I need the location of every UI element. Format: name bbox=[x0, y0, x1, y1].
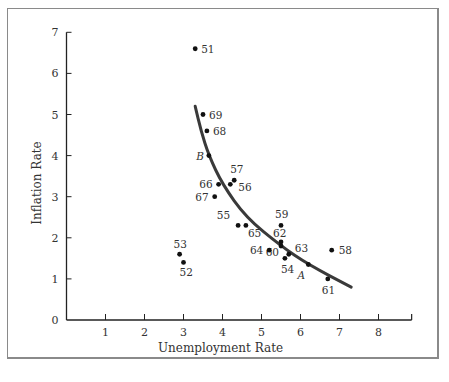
x-tick-label: 3 bbox=[180, 326, 187, 339]
point-label-55: 55 bbox=[217, 209, 230, 221]
point-label-62: 62 bbox=[273, 227, 286, 239]
point-label-61: 61 bbox=[322, 284, 335, 296]
point-label-59: 59 bbox=[275, 208, 288, 220]
y-tick-label: 1 bbox=[52, 273, 59, 286]
data-point bbox=[286, 252, 291, 257]
y-tick-label: 5 bbox=[52, 109, 59, 122]
data-point bbox=[193, 46, 198, 51]
y-tick-label: 3 bbox=[52, 191, 59, 204]
phillips-curve-chart: 0123456712345678515253545556575859606162… bbox=[0, 0, 449, 382]
data-point bbox=[329, 248, 334, 253]
y-tick-label: 0 bbox=[52, 314, 59, 327]
data-point bbox=[177, 252, 182, 257]
data-point bbox=[181, 260, 186, 265]
x-tick-label: 8 bbox=[375, 326, 382, 339]
point-a-marker bbox=[306, 262, 311, 267]
data-point bbox=[232, 178, 237, 183]
data-point bbox=[279, 240, 284, 245]
point-label-60: 60 bbox=[266, 246, 279, 258]
point-label-56: 56 bbox=[238, 181, 252, 193]
point-label-58: 58 bbox=[339, 244, 352, 256]
y-tick-label: 4 bbox=[52, 150, 59, 163]
x-tick-label: 7 bbox=[336, 326, 343, 339]
y-tick-label: 6 bbox=[52, 67, 59, 80]
point-label-65: 65 bbox=[248, 227, 261, 239]
x-tick-label: 2 bbox=[141, 326, 148, 339]
x-tick-label: 4 bbox=[219, 326, 226, 339]
data-point bbox=[228, 182, 233, 187]
point-label-52: 52 bbox=[180, 266, 193, 278]
data-point bbox=[236, 223, 241, 228]
data-point bbox=[267, 248, 272, 253]
point-label-57: 57 bbox=[230, 163, 243, 175]
data-point bbox=[283, 256, 288, 261]
data-point bbox=[216, 182, 221, 187]
point-label-53: 53 bbox=[174, 238, 187, 250]
x-tick-label: 6 bbox=[297, 326, 304, 339]
point-label-66: 66 bbox=[199, 178, 213, 190]
y-axis-title: Inflation Rate bbox=[30, 138, 44, 228]
point-b-label: B bbox=[195, 150, 204, 162]
point-label-63: 63 bbox=[295, 242, 308, 254]
y-tick-label: 2 bbox=[52, 232, 59, 245]
data-point bbox=[212, 194, 217, 199]
point-label-54: 54 bbox=[281, 263, 295, 275]
point-label-67: 67 bbox=[195, 191, 208, 203]
x-tick-label: 1 bbox=[102, 326, 109, 339]
point-label-64: 64 bbox=[250, 244, 264, 256]
x-axis-title: Unemployment Rate bbox=[158, 341, 283, 355]
data-point bbox=[205, 129, 210, 134]
data-point bbox=[201, 112, 206, 117]
point-label-51: 51 bbox=[201, 43, 214, 55]
point-label-69: 69 bbox=[209, 109, 222, 121]
point-label-68: 68 bbox=[213, 125, 226, 137]
point-b-marker bbox=[206, 153, 211, 158]
y-tick-label: 7 bbox=[52, 26, 59, 39]
data-point bbox=[279, 244, 284, 249]
data-point bbox=[325, 277, 330, 282]
x-tick-label: 5 bbox=[258, 326, 265, 339]
point-a-label: A bbox=[297, 269, 306, 281]
